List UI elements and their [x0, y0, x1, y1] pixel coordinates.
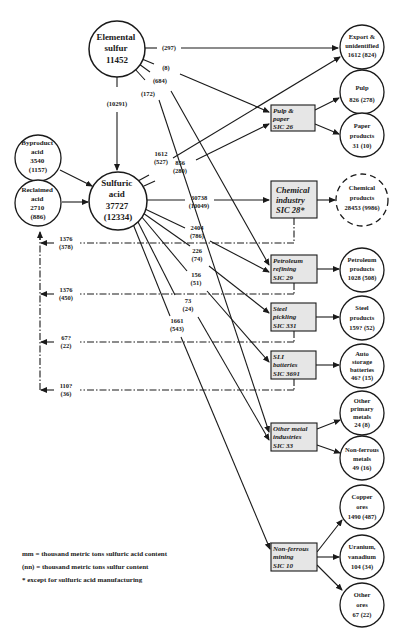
- product-uranium: Uranium,vanadium104 (34): [348, 543, 376, 571]
- legend-acid-units: mm = thousand metric tons sulfuric acid …: [22, 550, 167, 558]
- node-reclaimed-acid: Reclaimed acid 2710 (886): [15, 180, 61, 226]
- product-export: Export &unidentified1612 (824): [345, 33, 379, 59]
- svg-text:(8): (8): [162, 64, 170, 72]
- reclaim-chemical: 1376(378): [59, 235, 73, 251]
- node-byproduct-acid: Byproduct acid 3540 (1157): [15, 135, 61, 181]
- node-sulfuric-acid: Sulfuric acid 37727 (12334): [89, 172, 147, 230]
- flow-other-metal: 73(24): [183, 297, 194, 313]
- product-arrows: [315, 98, 342, 590]
- reclaim-arrow-stubs: [40, 232, 54, 390]
- reclaim-sli: 110?(36): [60, 382, 73, 398]
- flow-nonferrous-mining: 1661(543): [170, 317, 184, 333]
- product-petroleum: Petroleumproducts1028 (508): [348, 256, 377, 282]
- svg-text:(684): (684): [153, 77, 167, 85]
- svg-text:(172): (172): [141, 90, 155, 98]
- node-elemental-sulfur: Elemental sulfur 11452: [89, 21, 145, 77]
- input-acid-lines: [60, 170, 92, 202]
- industry-labels: Pulp &paperSIC 26 ChemicalindustrySIC 28…: [272, 107, 310, 570]
- flow-export: 1612(527): [154, 150, 168, 166]
- flow-steel: 226(74): [192, 247, 203, 263]
- reclaim-flow-labels: 1376(378) 1376(450) 67?(22) 110?(36): [59, 235, 73, 398]
- flow-pulp-paper: 856(280): [173, 159, 187, 175]
- svg-text:(10291): (10291): [107, 100, 128, 108]
- flow-petroleum: 2404(786): [190, 224, 204, 240]
- reclaim-petroleum: 1376(450): [59, 286, 73, 302]
- legend-footnote: * except for sulfuric acid manufacturing: [22, 576, 142, 584]
- sulfur-flow-diagram: Elemental sulfur 11452 Byproduct acid 35…: [0, 0, 401, 642]
- flow-sli: 156(51): [191, 271, 202, 287]
- reclaim-steel: 67?(22): [61, 334, 72, 350]
- reclaim-return-lines: [40, 218, 294, 390]
- flow-chemical: 30738(10049): [189, 194, 210, 210]
- svg-text:(297): (297): [162, 44, 176, 52]
- legend-sulfur-units: (nn) = thousand metric tons sulfur conte…: [22, 563, 148, 571]
